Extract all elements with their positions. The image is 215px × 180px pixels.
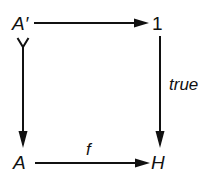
node-a: A — [13, 153, 26, 172]
commutative-diagram: A′ 1 A H true f — [0, 0, 215, 180]
node-h: H — [151, 153, 165, 172]
arrow-bottom — [35, 159, 150, 168]
arrow-left-mono — [18, 38, 29, 148]
label-true: true — [169, 76, 198, 93]
node-one: 1 — [152, 14, 163, 33]
node-a-prime: A′ — [12, 14, 28, 33]
arrow-right — [156, 36, 165, 148]
label-f: f — [86, 141, 91, 158]
arrow-top — [34, 19, 149, 28]
